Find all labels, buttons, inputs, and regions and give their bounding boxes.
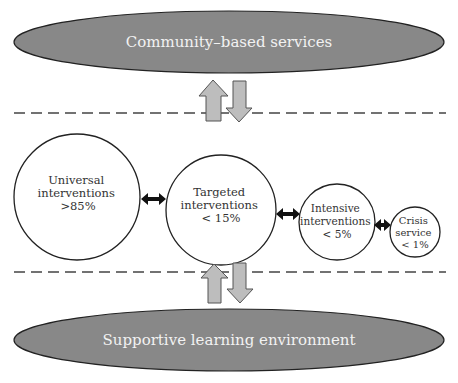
tiered-services-diagram: Community–based services Universal inter… — [0, 0, 458, 383]
double-arrow-icon — [374, 219, 391, 231]
tier-targeted-line1: Targeted — [193, 185, 246, 199]
tier-targeted: Targeted interventions < 15% — [166, 155, 276, 265]
tier-crisis-line2: service — [395, 227, 431, 238]
down-arrow-icon — [226, 81, 252, 122]
community-based-services-ellipse: Community–based services — [14, 11, 444, 73]
tier-intensive-line2: interventions — [300, 215, 371, 227]
tier-universal: Universal interventions >85% — [14, 134, 140, 260]
double-arrow-icon — [276, 208, 300, 220]
bottom-exchange-arrows — [201, 263, 253, 303]
tier-targeted-line2: interventions — [181, 198, 258, 212]
tier-intensive-line1: Intensive — [311, 202, 360, 214]
down-arrow-icon — [227, 263, 253, 303]
supportive-learning-environment-ellipse: Supportive learning environment — [14, 309, 444, 371]
up-arrow-icon — [199, 80, 228, 121]
tier-universal-line2: interventions — [38, 186, 115, 200]
double-arrow-icon — [141, 193, 166, 205]
tier-intensive: Intensive interventions < 5% — [299, 184, 375, 260]
supportive-learning-environment-label: Supportive learning environment — [102, 331, 355, 349]
community-based-services-label: Community–based services — [126, 33, 333, 51]
tier-universal-percent: >85% — [60, 199, 95, 213]
tier-intensive-percent: < 5% — [323, 228, 352, 240]
tier-crisis-percent: < 1% — [401, 239, 428, 250]
tier-crisis-line1: Crisis — [399, 215, 428, 226]
tier-crisis: Crisis service < 1% — [390, 207, 440, 257]
top-exchange-arrows — [199, 80, 252, 122]
tier-universal-line1: Universal — [48, 173, 104, 187]
up-arrow-icon — [201, 264, 228, 303]
tier-targeted-percent: < 15% — [202, 211, 241, 225]
